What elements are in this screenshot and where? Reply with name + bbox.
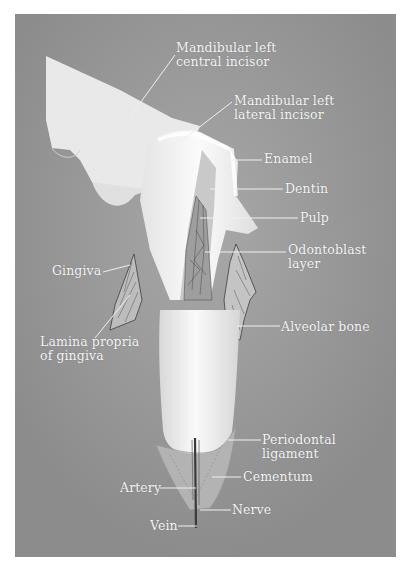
label-line: layer [288, 257, 366, 271]
diagram-frame [15, 14, 396, 557]
tooth-illustration [15, 14, 396, 557]
label-periodontal-ligament: Periodontal ligament [262, 433, 336, 461]
label-dentin: Dentin [285, 182, 328, 196]
label-alveolar-bone: Alveolar bone [281, 320, 370, 334]
label-enamel: Enamel [264, 152, 312, 166]
label-line: central incisor [176, 55, 276, 69]
label-artery: Artery [120, 481, 161, 495]
label-line: Lamina propria [40, 335, 139, 349]
label-line: Mandibular left [234, 94, 334, 108]
label-vein: Vein [150, 519, 178, 533]
label-nerve: Nerve [232, 503, 271, 517]
label-cementum: Cementum [243, 470, 313, 484]
label-central-incisor: Mandibular left central incisor [176, 41, 276, 69]
label-gingiva: Gingiva [52, 264, 101, 278]
label-line: lateral incisor [234, 108, 334, 122]
label-odontoblast-layer: Odontoblast layer [288, 243, 366, 271]
label-lamina-propria: Lamina propria of gingiva [40, 335, 139, 363]
label-line: Odontoblast [288, 243, 366, 257]
label-lateral-incisor: Mandibular left lateral incisor [234, 94, 334, 122]
label-line: ligament [262, 447, 336, 461]
label-line: Mandibular left [176, 41, 276, 55]
label-line: Periodontal [262, 433, 336, 447]
label-line: of gingiva [40, 349, 139, 363]
label-pulp: Pulp [300, 211, 329, 225]
